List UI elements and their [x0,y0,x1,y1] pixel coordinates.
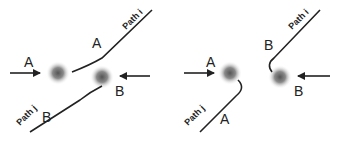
label-a-incoming: A [206,54,216,70]
particle-b [268,65,292,89]
particle-b [90,65,114,89]
left-panel: A B A Path i B Path j [10,7,152,132]
label-b-incoming: B [294,83,303,99]
scattering-diagram: A B A Path i B Path j A B B Path i A Pat… [0,0,340,141]
label-path-i: Path i [286,7,310,31]
particle-a [46,61,70,85]
label-a-outgoing: A [220,111,230,127]
label-path-j: Path j [14,103,38,127]
label-path-j: Path j [182,103,206,127]
label-b-outgoing: B [264,37,273,53]
label-b-incoming: B [115,83,124,99]
right-panel: A B B Path i A Path j [182,7,330,132]
path-i-line [72,10,152,72]
label-a-incoming: A [24,54,34,70]
label-a-outgoing: A [92,35,102,51]
label-b-outgoing: B [42,109,51,125]
path-j-line [30,86,102,132]
